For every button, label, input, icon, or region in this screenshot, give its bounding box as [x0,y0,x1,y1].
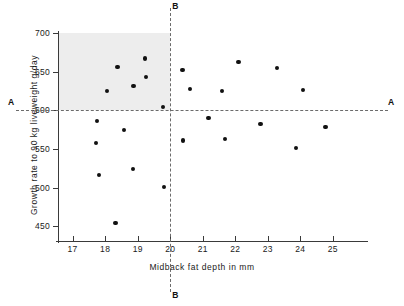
y-tick-500 [53,188,59,189]
data-point [206,116,210,120]
y-axis-line [58,31,59,243]
x-tick-23 [268,236,269,242]
data-point [258,122,262,126]
data-point [113,221,117,225]
data-point [94,141,98,145]
data-point [181,138,185,142]
data-point [131,167,135,171]
data-point [162,185,166,189]
data-point [220,89,224,93]
x-tick-label-19: 19 [126,244,150,254]
data-point [180,68,184,72]
data-point [105,89,109,93]
data-point [95,119,99,123]
data-point [294,146,298,150]
y-axis-title: Growth rate to 90 kg liveweight g/day [29,35,39,235]
data-point [143,56,147,60]
y-tick-450 [53,226,59,227]
data-point [236,60,240,64]
x-tick-24 [300,236,301,242]
reference-label-b-bottom: B [172,290,178,300]
shaded-selection-region [58,33,170,110]
y-tick-650 [53,72,59,73]
data-point [115,65,119,69]
reference-label-b-top: B [172,1,178,11]
x-tick-label-21: 21 [191,244,215,254]
data-point [223,137,227,141]
x-tick-17 [73,236,74,242]
data-point [144,75,148,79]
x-tick-19 [138,236,139,242]
data-point [131,84,135,88]
data-point [275,66,279,70]
data-point [301,88,305,92]
reference-label-a-left: A [8,97,14,107]
scatter-plot-figure: 171819202122232425 450500550600650700 A … [0,0,404,306]
x-tick-label-25: 25 [321,244,345,254]
x-tick-label-18: 18 [93,244,117,254]
y-tick-550 [53,149,59,150]
x-tick-21 [203,236,204,242]
x-tick-label-22: 22 [223,244,247,254]
x-axis-title: Midback fat depth in mm [0,262,404,272]
data-point [97,173,101,177]
x-tick-label-23: 23 [256,244,280,254]
data-point [122,128,126,132]
reference-label-a-right: A [388,97,394,107]
reference-line-b [170,8,171,292]
y-tick-700 [53,33,59,34]
x-tick-22 [235,236,236,242]
x-tick-25 [333,236,334,242]
data-point [188,87,192,91]
x-tick-18 [105,236,106,242]
reference-line-a [16,110,388,111]
x-tick-label-24: 24 [288,244,312,254]
x-axis-line [56,241,368,242]
data-point [323,125,327,129]
x-tick-label-17: 17 [61,244,85,254]
